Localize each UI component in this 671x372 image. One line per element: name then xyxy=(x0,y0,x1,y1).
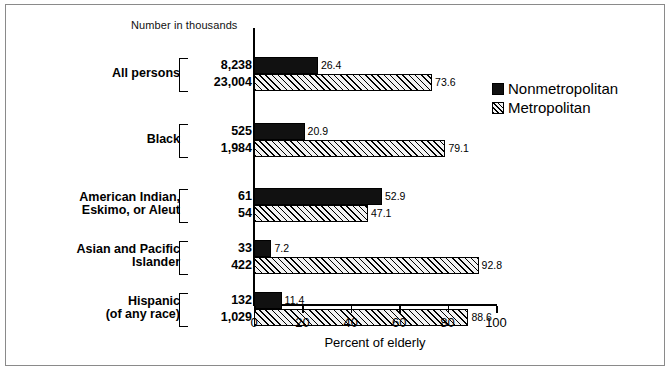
x-tick xyxy=(302,306,304,313)
bar-metro xyxy=(254,74,432,91)
category-label: Hispanic(of any race) xyxy=(0,295,180,321)
count-value: 1,984 xyxy=(194,140,252,157)
count-values: 6154 xyxy=(194,188,252,222)
bar-value-label: 52.9 xyxy=(385,188,405,205)
bar-value-label: 79.1 xyxy=(448,140,468,157)
value-bracket xyxy=(179,124,188,158)
bar-value-label: 73.6 xyxy=(435,74,455,91)
bar-nonmetro xyxy=(254,292,282,309)
plot-area: 26.473.620.979.152.947.17.292.811.488.6 … xyxy=(253,28,497,304)
value-bracket xyxy=(179,241,188,275)
x-tick-label: 40 xyxy=(331,315,371,330)
count-value: 8,238 xyxy=(194,57,252,74)
legend: NonmetropolitanMetropolitan xyxy=(492,79,618,117)
bar-metro xyxy=(254,257,479,274)
bar-nonmetro xyxy=(254,123,305,140)
bar-value-label: 47.1 xyxy=(371,205,391,222)
bar-nonmetro xyxy=(254,240,271,257)
category-label-line: Black xyxy=(0,133,180,146)
legend-item: Metropolitan xyxy=(492,98,618,117)
count-value: 132 xyxy=(194,292,252,309)
hatched-swatch xyxy=(492,102,504,114)
chart-figure: Number in thousands All persons8,23823,0… xyxy=(0,0,671,372)
count-value: 54 xyxy=(194,205,252,222)
count-values: 33422 xyxy=(194,240,252,274)
count-value: 61 xyxy=(194,188,252,205)
category-label: All persons xyxy=(0,67,180,80)
bar-value-label: 26.4 xyxy=(321,57,341,74)
legend-label: Nonmetropolitan xyxy=(508,80,618,97)
count-values: 8,23823,004 xyxy=(194,57,252,91)
x-tick-label: 80 xyxy=(428,315,468,330)
x-tick-label: 60 xyxy=(379,315,419,330)
bar-nonmetro xyxy=(254,188,382,205)
category-label: Asian and PacificIslander xyxy=(0,243,180,269)
category-label: American Indian,Eskimo, or Aleut xyxy=(0,191,180,217)
count-values: 5251,984 xyxy=(194,123,252,157)
bar-value-label: 11.4 xyxy=(285,292,305,309)
black-solid-swatch xyxy=(492,83,504,95)
value-bracket xyxy=(179,293,188,327)
x-tick-label: 20 xyxy=(282,315,322,330)
count-value: 23,004 xyxy=(194,74,252,91)
x-tick-label: 100 xyxy=(476,315,516,330)
bar-metro xyxy=(254,205,368,222)
legend-label: Metropolitan xyxy=(508,99,591,116)
x-tick xyxy=(496,306,498,313)
bar-value-label: 92.8 xyxy=(482,257,502,274)
x-axis-title: Percent of elderly xyxy=(253,335,497,350)
x-tick xyxy=(399,306,401,313)
category-label-line: All persons xyxy=(0,67,180,80)
x-tick xyxy=(448,306,450,313)
count-value: 33 xyxy=(194,240,252,257)
count-value: 422 xyxy=(194,257,252,274)
x-tick xyxy=(254,306,256,313)
x-tick xyxy=(351,306,353,313)
value-bracket xyxy=(179,189,188,223)
legend-item: Nonmetropolitan xyxy=(492,79,618,98)
category-label-line: Eskimo, or Aleut xyxy=(0,204,180,217)
units-note: Number in thousands xyxy=(131,19,237,31)
bar-nonmetro xyxy=(254,57,318,74)
category-label: Black xyxy=(0,133,180,146)
bar-metro xyxy=(254,140,445,157)
bar-value-label: 7.2 xyxy=(274,240,289,257)
category-label-line: Islander xyxy=(0,256,180,269)
count-value: 525 xyxy=(194,123,252,140)
value-bracket xyxy=(179,58,188,92)
category-label-line: (of any race) xyxy=(0,308,180,321)
x-tick-label: 0 xyxy=(234,315,274,330)
bar-value-label: 20.9 xyxy=(308,123,328,140)
